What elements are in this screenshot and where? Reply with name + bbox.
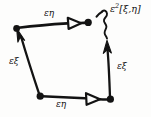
diagram-canvas: [0, 0, 151, 117]
label-bottom-edge: εη: [56, 100, 66, 109]
vertex-bottom-left: [37, 93, 44, 100]
vertex-top-left: [13, 25, 20, 32]
edge-bottom: [42, 93, 108, 105]
label-top-edge: εη: [44, 9, 54, 18]
edge-top: [19, 18, 87, 29]
squiggle-path: [102, 11, 107, 39]
vertex-bottom-right: [107, 96, 114, 103]
label-left-edge: εξ: [9, 57, 19, 66]
label-commutator-gap: ε2[ξ,η]: [110, 3, 141, 14]
label-right-edge: εξ: [117, 62, 127, 71]
edge-left: [17, 28, 40, 94]
squiggle-tail: [97, 12, 103, 17]
commutator-bracket: [ξ,η]: [119, 3, 140, 14]
edge-left-shaft: [21, 37, 39, 95]
edge-right: [103, 40, 111, 97]
edge-right-shaft: [108, 51, 110, 98]
commutator-diagram: εη εξ εη εξ ε2[ξ,η]: [0, 0, 151, 117]
squiggle-arrow-icon: [97, 11, 107, 39]
edge-top-shaft: [19, 23, 68, 27]
vertex-top-right: [85, 19, 92, 26]
edge-bottom-arrowhead-icon: [86, 93, 100, 105]
edge-bottom-shaft: [42, 96, 85, 98]
edge-top-arrowhead-icon: [68, 18, 81, 29]
